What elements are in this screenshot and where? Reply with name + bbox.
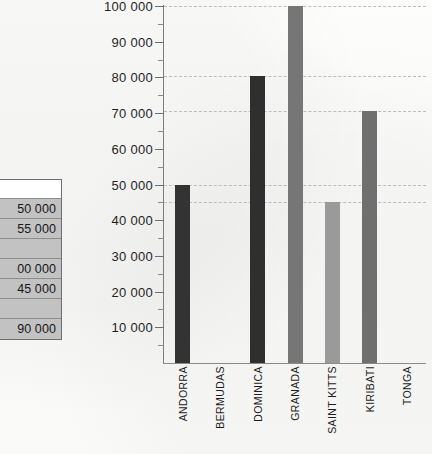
y-axis-tick xyxy=(155,113,164,114)
y-axis-tick-label: 80 000 xyxy=(111,70,153,85)
y-axis-minor-tick xyxy=(158,95,164,96)
y-axis-tick xyxy=(155,256,164,257)
bar-kiribati xyxy=(362,111,377,363)
y-axis-tick-label: 30 000 xyxy=(111,248,153,263)
x-axis-label-tonga: TONGA xyxy=(401,366,413,405)
y-axis-tick xyxy=(155,77,164,78)
y-axis-tick xyxy=(155,149,164,150)
y-axis-tick xyxy=(155,220,164,221)
x-axis-label-dominica: DOMINICA xyxy=(252,366,264,422)
x-axis-label-granada: GRANADA xyxy=(289,366,301,421)
y-axis-tick xyxy=(155,42,164,43)
y-axis-minor-tick xyxy=(158,202,164,203)
y-axis-minor-tick xyxy=(158,345,164,346)
y-axis-tick xyxy=(155,292,164,293)
bar-saint-kitts xyxy=(325,202,340,363)
y-axis-tick xyxy=(155,6,164,7)
y-axis-tick-label: 70 000 xyxy=(111,106,153,121)
y-axis-minor-tick xyxy=(158,24,164,25)
x-axis-label-kiribati: KIRIBATI xyxy=(364,366,376,412)
x-axis-labels: ANDORRABERMUDASDOMINICAGRANADASAINT KITT… xyxy=(164,366,426,452)
y-axis-tick-label: 90 000 xyxy=(111,34,153,49)
y-axis-minor-tick xyxy=(158,131,164,132)
x-axis-label-saint-kitts: SAINT KITTS xyxy=(326,366,338,434)
y-axis-minor-tick xyxy=(158,274,164,275)
y-axis-tick-label: 100 000 xyxy=(104,0,153,14)
y-axis-tick-label: 10 000 xyxy=(111,320,153,335)
bar-andorra xyxy=(175,185,190,364)
bar-granada xyxy=(288,6,303,363)
y-axis-minor-tick xyxy=(158,238,164,239)
y-axis-minor-tick xyxy=(158,60,164,61)
x-axis-line xyxy=(163,363,426,364)
x-axis-label-andorra: ANDORRA xyxy=(177,366,189,421)
y-axis-tick-label: 40 000 xyxy=(111,213,153,228)
y-axis-minor-tick xyxy=(158,167,164,168)
x-axis-label-bermudas: BERMUDAS xyxy=(214,366,226,429)
y-axis-tick-label: 50 000 xyxy=(111,177,153,192)
bar-dominica xyxy=(250,76,265,363)
y-axis-tick xyxy=(155,185,164,186)
y-axis-tick xyxy=(155,327,164,328)
y-axis-minor-tick xyxy=(158,309,164,310)
bar-chart: 10 00020 00030 00040 00050 00060 00070 0… xyxy=(0,0,432,454)
plot-area: 10 00020 00030 00040 00050 00060 00070 0… xyxy=(164,6,426,363)
y-axis-tick-label: 60 000 xyxy=(111,141,153,156)
y-axis-tick-label: 20 000 xyxy=(111,284,153,299)
